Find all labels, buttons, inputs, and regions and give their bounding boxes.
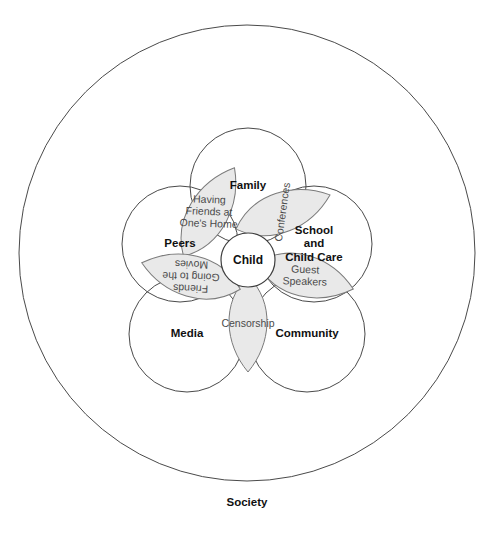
domain-label-media: Media [171,327,204,339]
child-label: Child [233,253,263,267]
society-label: Society [227,496,269,508]
connection-label-text-censorship: Censorship [221,317,274,329]
ecological-systems-diagram: HavingFriends atOne's HomeConferencesGue… [0,0,494,533]
domain-label-community: Community [275,327,339,339]
domain-label-family: Family [230,179,267,191]
connection-label-censorship: Censorship [221,317,274,329]
diagram-canvas: HavingFriends atOne's HomeConferencesGue… [0,0,494,533]
domain-label-peers: Peers [164,237,195,249]
